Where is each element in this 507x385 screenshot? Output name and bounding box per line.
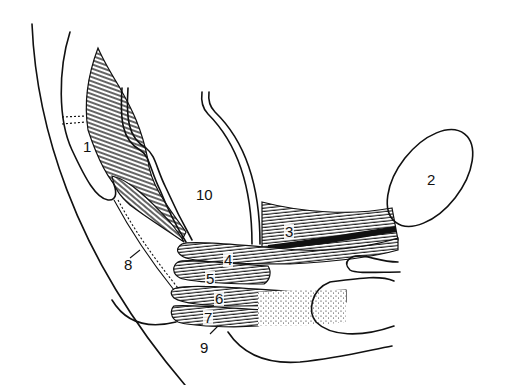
levator-muscle xyxy=(86,48,186,240)
label-5: 5 xyxy=(205,271,215,286)
organ-10-wall-outer xyxy=(202,92,252,244)
label-8: 8 xyxy=(124,257,132,272)
label-3: 3 xyxy=(284,224,294,239)
stippled-body xyxy=(258,289,346,326)
label-1: 1 xyxy=(83,139,91,154)
anatomical-diagram: 1 2 3 4 5 6 7 8 9 10 xyxy=(0,0,507,385)
label-4: 4 xyxy=(223,252,233,267)
label-7: 7 xyxy=(203,310,213,325)
perineum-lower xyxy=(228,332,392,362)
perineum-contour xyxy=(112,300,176,325)
label-9: 9 xyxy=(200,340,208,355)
leader-9 xyxy=(210,326,218,334)
diagram-drawing xyxy=(0,0,507,385)
label-10: 10 xyxy=(196,187,213,202)
bone-1-dashed xyxy=(62,116,86,124)
label-2: 2 xyxy=(427,172,435,187)
label-6: 6 xyxy=(214,291,224,306)
organ-10-wall-inner xyxy=(209,92,260,244)
band-7 xyxy=(171,305,264,326)
